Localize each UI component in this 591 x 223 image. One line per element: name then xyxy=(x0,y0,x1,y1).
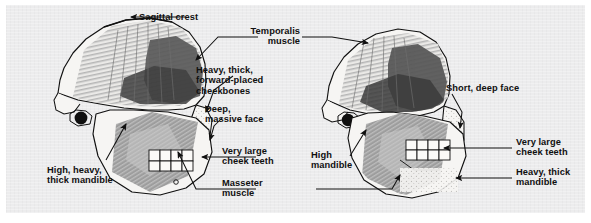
figure-container: Sagittal crest Temporalis muscle Heavy, … xyxy=(0,0,591,223)
label-high-mandible: High mandible xyxy=(311,150,352,171)
label-heavy-thick-mandible: Heavy, thick mandible xyxy=(516,167,570,188)
leader-temporalis-right xyxy=(302,37,368,43)
label-deep-massive-face: Deep, massive face xyxy=(205,104,264,125)
right-cheek-teeth xyxy=(406,140,450,160)
label-temporalis-muscle: Temporalis muscle xyxy=(246,26,300,47)
left-orbit xyxy=(75,112,88,125)
label-very-large-cheek-teeth-right: Very large cheek teeth xyxy=(516,137,568,158)
label-high-heavy-thick-mandible: High, heavy, thick mandible xyxy=(47,165,113,186)
left-cheek-teeth xyxy=(149,150,193,171)
right-skull-group xyxy=(322,29,466,198)
label-heavy-thick-cheekbones: Heavy, thick, forward-placed cheekbones xyxy=(196,65,263,96)
label-short-deep-face: Short, deep face xyxy=(446,83,519,93)
label-masseter-muscle: Masseter muscle xyxy=(222,178,263,199)
label-sagittal-crest: Sagittal crest xyxy=(139,12,198,22)
label-very-large-cheek-teeth-left: Very large cheek teeth xyxy=(222,146,274,167)
